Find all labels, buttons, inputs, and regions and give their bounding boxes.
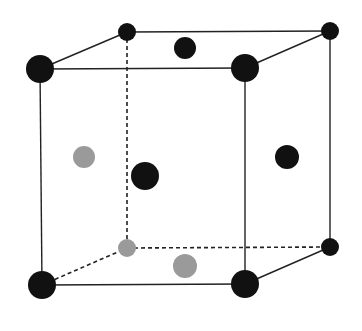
atom-corner-front-bottom-right <box>231 270 259 298</box>
edge-back-top <box>127 31 330 32</box>
crystal-unit-cell-diagram <box>0 0 362 331</box>
atom-face-center-top <box>174 37 196 59</box>
atom-body-center <box>131 162 159 190</box>
atom-corner-back-top-left <box>118 23 136 41</box>
atom-corner-back-top-right <box>321 22 339 40</box>
atom-corner-back-bottom-left <box>118 239 136 257</box>
edge-front-top <box>40 68 245 69</box>
atom-face-center-bottom <box>173 254 197 278</box>
atom-corner-front-top-left <box>26 55 54 83</box>
atom-face-center-left <box>73 146 95 168</box>
atom-corner-back-bottom-right <box>321 238 339 256</box>
atom-corner-front-top-right <box>231 54 259 82</box>
atom-corner-front-bottom-left <box>28 271 56 299</box>
atom-face-center-right <box>275 145 299 169</box>
